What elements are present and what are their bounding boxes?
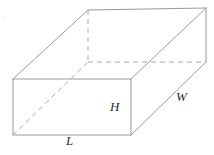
rectangular-prism-figure: L H W r	[0, 0, 214, 155]
label-height: H	[110, 100, 119, 113]
hidden-edge-bottom-left-receding	[13, 62, 88, 135]
stray-mark: r	[3, 15, 6, 23]
label-width: W	[176, 90, 187, 103]
edge-bottom-right-receding	[131, 62, 206, 135]
label-length: L	[66, 134, 73, 147]
edge-top-right-receding	[131, 8, 206, 79]
cuboid-diagram	[0, 0, 214, 155]
edge-back-top	[88, 8, 206, 10]
edge-top-left-receding	[13, 10, 88, 79]
